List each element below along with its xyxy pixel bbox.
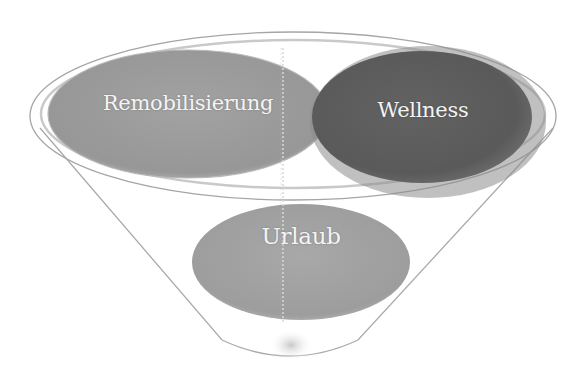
- wellness-ellipse: [312, 51, 532, 183]
- urlaub-ellipse: [192, 204, 410, 320]
- funnel-diagram: [0, 0, 580, 376]
- remobilisierung-ellipse: [48, 50, 328, 178]
- funnel-tip-glow: [269, 329, 313, 361]
